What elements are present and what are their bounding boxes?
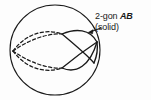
annotation-prefix: 2-gon <box>95 11 120 21</box>
front-arc-mid-upper <box>62 34 94 63</box>
dashed-arc-group <box>13 32 62 71</box>
solid-arc-group <box>62 30 97 69</box>
annotation-line-2: (solid) <box>95 22 151 33</box>
annotation-label: 2-gon AB (solid) <box>95 11 151 32</box>
annotation-line-1: 2-gon AB <box>95 11 151 22</box>
sphere-2gon-figure: 2-gon AB (solid) <box>0 0 151 100</box>
annotation-vertices: AB <box>120 11 133 21</box>
